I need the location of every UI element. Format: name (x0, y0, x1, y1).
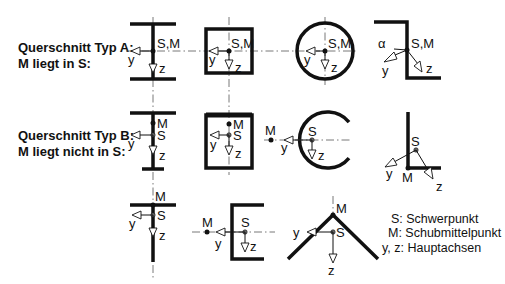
svg-text:M: M (402, 170, 413, 185)
svg-text:y: y (304, 52, 311, 67)
svg-text:y: y (129, 216, 136, 231)
svg-text:y: y (210, 137, 217, 152)
svg-text:S,M: S,M (411, 36, 434, 51)
svg-text:S,M: S,M (231, 36, 254, 51)
z-profile-a: S,M α y z (374, 22, 441, 78)
svg-text:y: y (293, 225, 300, 240)
svg-text:z: z (159, 228, 166, 243)
i-profile-a: S,M y z (128, 24, 180, 79)
svg-text:z: z (235, 146, 242, 161)
svg-text:S: S (233, 128, 242, 143)
svg-text:z: z (250, 239, 257, 254)
svg-text:S: S (411, 134, 420, 149)
open-circular-b: M S y z (264, 112, 350, 168)
svg-text:z: z (426, 61, 433, 76)
l-angle-b: S y M z (385, 112, 443, 194)
svg-text:M: M (202, 215, 213, 230)
svg-text:M: M (336, 201, 347, 216)
svg-text:S: S (157, 208, 166, 223)
svg-text:y: y (128, 136, 135, 151)
svg-text:M: M (265, 123, 276, 138)
svg-text:y: y (209, 52, 216, 67)
svg-text:z: z (331, 60, 338, 75)
svg-text:S: S (157, 128, 166, 143)
svg-text:y: y (215, 236, 222, 251)
svg-text:z: z (159, 148, 166, 163)
cross-section-diagram: S,M y z S,M y z S,M y z S,M α (0, 0, 505, 284)
box-profile-a: S,M y z (206, 29, 254, 75)
svg-text:z: z (159, 61, 166, 76)
svg-text:y: y (386, 166, 393, 181)
svg-text:α: α (378, 36, 386, 51)
svg-text:S: S (336, 225, 345, 240)
svg-text:z: z (436, 179, 443, 194)
svg-text:M: M (155, 189, 166, 204)
svg-text:y: y (382, 63, 389, 78)
v-angle-c: M S y z (288, 196, 378, 278)
t-profile-c: M S y z (129, 189, 176, 262)
i-profile-b: M S y z (128, 113, 176, 169)
svg-text:y: y (281, 140, 288, 155)
svg-text:z: z (318, 148, 325, 163)
svg-text:z: z (235, 60, 242, 75)
svg-text:z: z (328, 263, 335, 278)
svg-text:S: S (308, 124, 317, 139)
channel-profile-c: M S y z (192, 205, 275, 259)
svg-text:S: S (241, 215, 250, 230)
svg-text:S,M: S,M (328, 36, 351, 51)
svg-text:y: y (128, 52, 135, 67)
svg-text:S,M: S,M (157, 36, 180, 51)
